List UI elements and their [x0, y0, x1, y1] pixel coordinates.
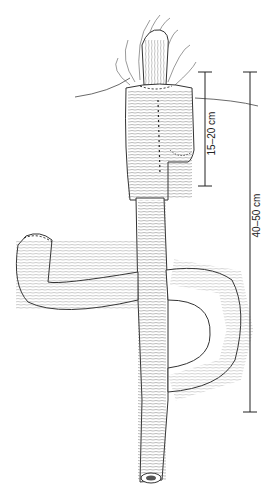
- esophagus-stump: [142, 30, 168, 85]
- left-limb: [16, 234, 138, 310]
- roux-limb: [136, 198, 168, 483]
- label-40-50cm: 40–50 cm: [251, 194, 262, 238]
- jejunal-pouch: [126, 84, 195, 200]
- illustration: [0, 0, 280, 494]
- right-loop: [166, 268, 241, 392]
- label-15-20cm: 15–20 cm: [206, 112, 217, 156]
